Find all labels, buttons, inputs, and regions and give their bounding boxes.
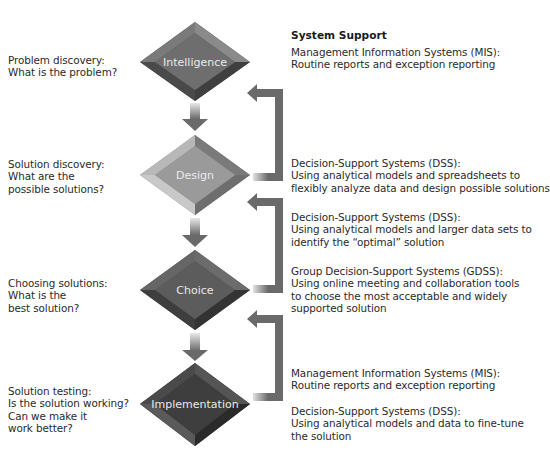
question-line: What is the problem? xyxy=(8,66,117,78)
support-line: Decision-Support Systems (DSS): xyxy=(291,157,550,169)
down-arrow-icon xyxy=(182,218,208,247)
support-dss-implementation: Decision-Support Systems (DSS): Using an… xyxy=(291,405,524,442)
question-line: Is the solution working? xyxy=(8,397,129,409)
feedback-arrow-icon xyxy=(247,310,283,401)
question-line: best solution? xyxy=(8,302,108,314)
down-arrow-icon xyxy=(182,333,208,361)
support-line: Management Information Systems (MIS): xyxy=(291,46,500,58)
diamond-implementation: Implementation xyxy=(140,363,250,446)
question-line: Problem discovery: xyxy=(8,54,117,66)
diamond-label: Choice xyxy=(176,284,213,297)
diamond-choice: Choice xyxy=(140,250,250,330)
support-line: Using analytical models and larger data … xyxy=(291,223,532,235)
question-line: What is the xyxy=(8,289,108,301)
question-line: possible solutions? xyxy=(8,183,104,195)
support-line: Routine reports and exception reporting xyxy=(291,58,500,70)
question-line: Solution discovery: xyxy=(8,158,104,170)
question-line: Solution testing: xyxy=(8,385,129,397)
diamond-label: Design xyxy=(176,169,214,182)
question-line: Choosing solutions: xyxy=(8,277,108,289)
question-line: Can we make it xyxy=(8,410,129,422)
diamond-label: Intelligence xyxy=(163,56,227,69)
support-gdss-choice: Group Decision-Support Systems (GDSS): U… xyxy=(291,265,519,315)
support-line: Using analytical models and spreadsheets… xyxy=(291,169,550,181)
support-line: supported solution xyxy=(291,302,519,314)
support-line: the solution xyxy=(291,430,524,442)
stage-question-implementation: Solution testing: Is the solution workin… xyxy=(8,385,129,435)
support-line: Using analytical models and data to fine… xyxy=(291,417,524,429)
support-mis-intelligence: Management Information Systems (MIS): Ro… xyxy=(291,46,500,71)
system-support-heading: System Support xyxy=(291,29,387,41)
support-line: Group Decision-Support Systems (GDSS): xyxy=(291,265,519,277)
down-arrow-icon xyxy=(182,103,208,131)
support-line: Decision-Support Systems (DSS): xyxy=(291,405,524,417)
support-line: identify the “optimal” solution xyxy=(291,236,532,248)
support-line: flexibly analyze data and design possibl… xyxy=(291,182,550,194)
support-line: Using online meeting and collaboration t… xyxy=(291,277,519,289)
support-mis-implementation: Management Information Systems (MIS): Ro… xyxy=(291,367,500,392)
question-line: What are the xyxy=(8,170,104,182)
support-line: Management Information Systems (MIS): xyxy=(291,367,500,379)
stage-question-choice: Choosing solutions: What is the best sol… xyxy=(8,277,108,314)
question-line: work better? xyxy=(8,422,129,434)
stage-question-intelligence: Problem discovery: What is the problem? xyxy=(8,54,117,79)
feedback-arrow-icon xyxy=(247,193,283,293)
diamond-intelligence: Intelligence xyxy=(140,22,250,101)
support-dss-design: Decision-Support Systems (DSS): Using an… xyxy=(291,157,550,194)
support-line: to choose the most acceptable and widely xyxy=(291,290,519,302)
support-line: Routine reports and exception reporting xyxy=(291,379,500,391)
diamond-label: Implementation xyxy=(151,398,238,411)
diamond-design: Design xyxy=(140,135,250,215)
support-dss-choice: Decision-Support Systems (DSS): Using an… xyxy=(291,211,532,248)
stage-question-design: Solution discovery: What are the possibl… xyxy=(8,158,104,195)
support-line: Decision-Support Systems (DSS): xyxy=(291,211,532,223)
feedback-arrow-icon xyxy=(247,84,283,181)
